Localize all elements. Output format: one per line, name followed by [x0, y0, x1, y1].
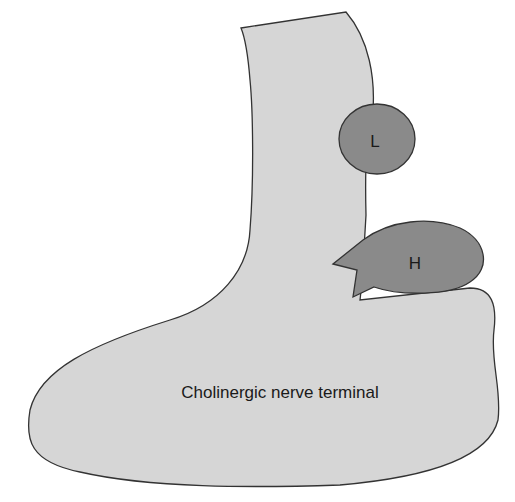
terminal-label: Cholinergic nerve terminal [181, 383, 378, 402]
receptor-l-label: L [370, 132, 379, 151]
receptor-h-label: H [409, 254, 421, 273]
diagram-canvas: L H Cholinergic nerve terminal [0, 0, 515, 502]
